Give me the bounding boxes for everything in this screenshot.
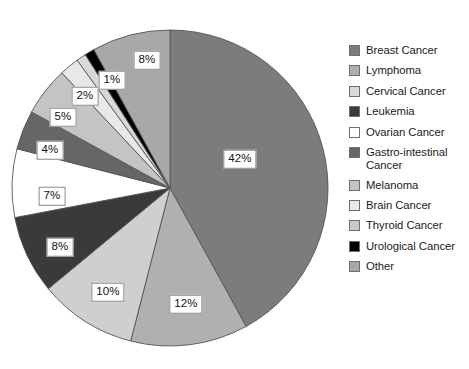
- legend-item[interactable]: Brain Cancer: [349, 199, 469, 212]
- pie-slice-value-label: 10%: [91, 283, 124, 302]
- legend-item[interactable]: Urological Cancer: [349, 240, 469, 253]
- legend-item[interactable]: Melanoma: [349, 179, 469, 192]
- legend-swatch-icon: [349, 180, 360, 191]
- legend-item-label: Other: [366, 260, 394, 273]
- legend-item-label: Melanoma: [366, 179, 418, 192]
- legend-swatch-icon: [349, 106, 360, 117]
- legend-item-label: Ovarian Cancer: [366, 126, 444, 139]
- legend-item-label: Brain Cancer: [366, 199, 431, 212]
- legend-item[interactable]: Breast Cancer: [349, 44, 469, 57]
- legend-item[interactable]: Ovarian Cancer: [349, 126, 469, 139]
- legend-swatch-icon: [349, 86, 360, 97]
- legend-item-label: Cervical Cancer: [366, 85, 446, 98]
- pie-chart-plot-area: 42%12%10%8%7%4%5%2%1%8%: [0, 0, 345, 369]
- legend-item-label: Urological Cancer: [366, 240, 455, 253]
- legend-item[interactable]: Leukemia: [349, 105, 469, 118]
- legend-item[interactable]: Gastro-intestinal Cancer: [349, 146, 469, 171]
- legend-item[interactable]: Other: [349, 260, 469, 273]
- legend-item-label: Gastro-intestinal Cancer: [366, 146, 469, 171]
- pie-slice-value-label: 8%: [47, 238, 74, 257]
- legend-swatch-icon: [349, 241, 360, 252]
- legend-item-label: Lymphoma: [366, 64, 421, 77]
- legend-swatch-icon: [349, 127, 360, 138]
- legend-item-label: Leukemia: [366, 105, 415, 118]
- legend-swatch-icon: [349, 147, 360, 158]
- pie-slice-value-label: 8%: [134, 51, 161, 70]
- pie-slice-value-label: 12%: [169, 295, 202, 314]
- legend-swatch-icon: [349, 220, 360, 231]
- pie-slice-value-label: 4%: [37, 141, 64, 160]
- pie-slice-value-label: 1%: [99, 71, 126, 90]
- chart-legend: Breast CancerLymphomaCervical CancerLeuk…: [349, 44, 469, 280]
- legend-item[interactable]: Lymphoma: [349, 64, 469, 77]
- legend-item-label: Thyroid Cancer: [366, 219, 443, 232]
- pie-slice-value-label: 5%: [50, 108, 77, 127]
- pie-slice-value-label: 7%: [39, 187, 66, 206]
- legend-swatch-icon: [349, 45, 360, 56]
- pie-chart-figure: 42%12%10%8%7%4%5%2%1%8% Breast CancerLym…: [0, 0, 469, 369]
- legend-swatch-icon: [349, 261, 360, 272]
- legend-item-label: Breast Cancer: [366, 44, 438, 57]
- legend-item[interactable]: Cervical Cancer: [349, 85, 469, 98]
- legend-swatch-icon: [349, 200, 360, 211]
- pie-slice-value-label: 42%: [223, 150, 256, 169]
- pie-chart-svg: [0, 0, 345, 369]
- pie-slice-value-label: 2%: [72, 87, 99, 106]
- legend-swatch-icon: [349, 65, 360, 76]
- legend-item[interactable]: Thyroid Cancer: [349, 219, 469, 232]
